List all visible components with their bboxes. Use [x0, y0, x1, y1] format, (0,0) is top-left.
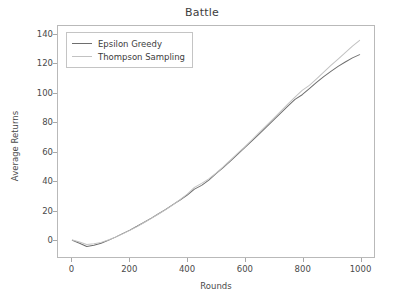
- legend-swatch-icon: [72, 56, 92, 57]
- y-tick-label: 60: [21, 147, 53, 157]
- x-tick-mark: [361, 258, 362, 262]
- series-line-epsilon-greedy: [72, 55, 359, 247]
- y-axis-label: Average Returns: [10, 91, 20, 201]
- legend-label: Thompson Sampling: [98, 52, 185, 62]
- y-tick-label: 120: [21, 58, 53, 68]
- chart-legend: Epsilon GreedyThompson Sampling: [66, 32, 193, 68]
- legend-item[interactable]: Epsilon Greedy: [72, 37, 185, 50]
- x-tick-label: 400: [167, 264, 207, 274]
- x-axis-label: Rounds: [57, 281, 375, 291]
- x-tick-mark: [245, 258, 246, 262]
- chart-title: Battle: [0, 6, 404, 19]
- legend-item[interactable]: Thompson Sampling: [72, 50, 185, 63]
- x-tick-mark: [71, 258, 72, 262]
- x-tick-label: 800: [283, 264, 323, 274]
- y-tick-label: 100: [21, 88, 53, 98]
- legend-swatch-icon: [72, 43, 92, 44]
- y-tick-label: 40: [21, 176, 53, 186]
- x-tick-label: 0: [51, 264, 91, 274]
- x-tick-mark: [129, 258, 130, 262]
- series-line-thompson-sampling: [72, 40, 359, 244]
- x-tick-mark: [303, 258, 304, 262]
- y-tick-label: 20: [21, 206, 53, 216]
- x-tick-label: 600: [225, 264, 265, 274]
- plot-area: Epsilon GreedyThompson Sampling: [57, 25, 375, 258]
- y-tick-label: 80: [21, 117, 53, 127]
- y-tick-label: 0: [21, 235, 53, 245]
- y-axis-ticks: 020406080100120140: [0, 0, 53, 301]
- chart-figure: Battle 020406080100120140 02004006008001…: [0, 0, 404, 301]
- y-tick-label: 140: [21, 29, 53, 39]
- legend-label: Epsilon Greedy: [98, 39, 162, 49]
- x-tick-label: 200: [109, 264, 149, 274]
- x-tick-mark: [187, 258, 188, 262]
- x-axis-ticks: 02004006008001000: [0, 264, 404, 280]
- x-tick-label: 1000: [341, 264, 381, 274]
